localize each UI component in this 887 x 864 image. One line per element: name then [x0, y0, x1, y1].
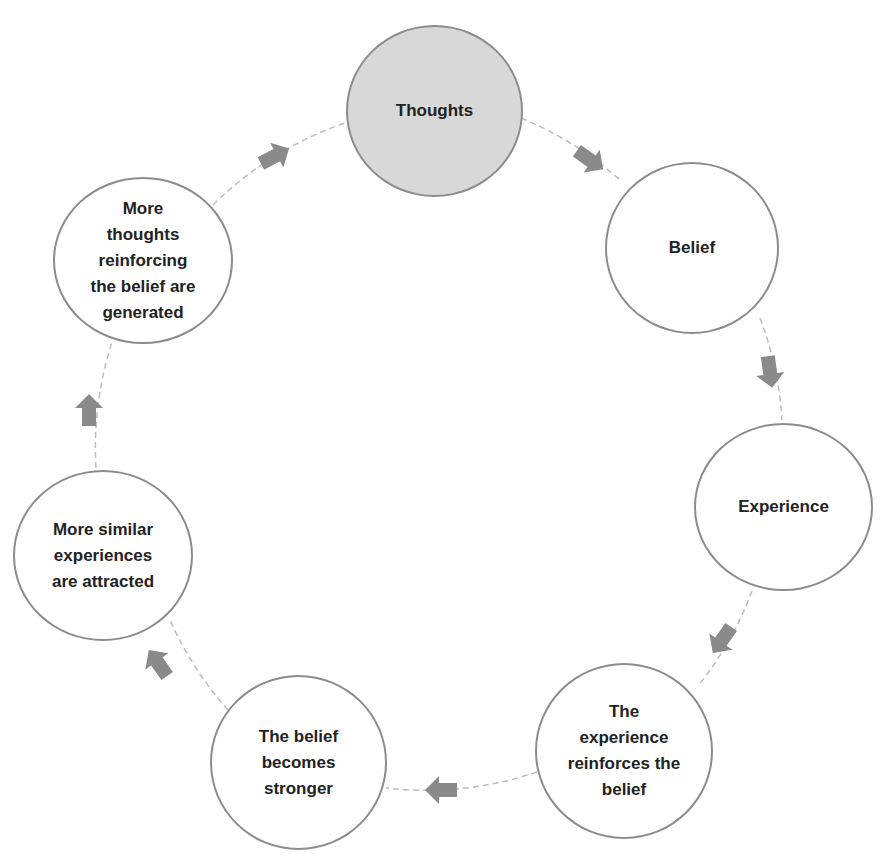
cycle-diagram: Thoughts Belief Experience The experienc… [0, 0, 887, 864]
arrow-up-right-icon [254, 136, 295, 176]
node-thoughts: Thoughts [346, 25, 523, 197]
node-more-thoughts-generated: More thoughts reinforcing the belief are… [53, 177, 233, 344]
node-experience: Experience [694, 423, 873, 591]
connector-morethoughts-thoughts [213, 122, 348, 205]
connector-reinforces-stronger [386, 772, 537, 790]
arrow-down-icon [754, 354, 786, 390]
node-label: More similar experiences are attracted [38, 517, 168, 595]
connector-stronger-similar [170, 620, 228, 710]
node-experience-reinforces-belief: The experience reinforces the belief [535, 663, 713, 839]
node-label: Belief [655, 235, 729, 261]
arrow-up-icon [75, 394, 103, 426]
node-similar-experiences-attracted: More similar experiences are attracted [13, 470, 193, 641]
arrow-up-left-icon [137, 642, 178, 684]
connector-thoughts-belief [521, 118, 620, 180]
node-label: Thoughts [382, 98, 487, 124]
node-label: Experience [724, 494, 843, 520]
node-belief-becomes-stronger: The belief becomes stronger [210, 675, 387, 850]
node-label: More thoughts reinforcing the belief are… [77, 196, 210, 326]
node-label: The belief becomes stronger [245, 724, 352, 802]
arrow-left-icon [425, 776, 457, 804]
node-label: The experience reinforces the belief [554, 699, 694, 803]
node-belief: Belief [605, 162, 779, 334]
arrow-down-left-icon [701, 619, 742, 661]
